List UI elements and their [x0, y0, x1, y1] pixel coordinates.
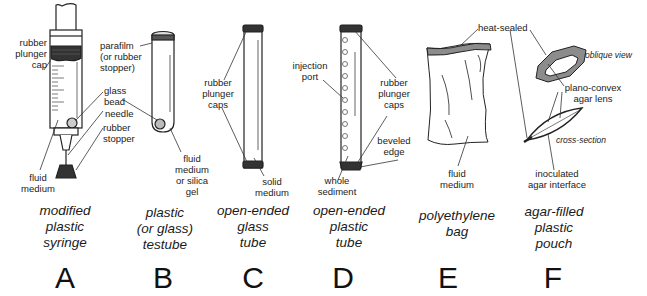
caption-d: open-ended plastic tube [309, 203, 389, 251]
polyethylene-bag-illustration [427, 43, 491, 144]
panel-letter-c: C [233, 262, 273, 294]
label-parafilm: parafilm (or rubber stopper) [100, 40, 142, 73]
testube-illustration [152, 32, 174, 133]
label-rubber-plunger-caps-d: rubber plunger caps [372, 77, 416, 110]
label-solid-medium: solid medium [250, 176, 294, 198]
label-fluid-medium-e: fluid medium [435, 168, 479, 190]
caption-c: open-ended glass tube [213, 203, 293, 251]
label-fluid-medium-b: fluid medium or silica gel [170, 153, 214, 197]
label-oblique-view: oblique view [585, 50, 632, 61]
caption-b: plastic (or glass) testube [125, 205, 205, 253]
panel-letter-e: E [428, 262, 468, 294]
label-fluid-medium-a: fluid medium [16, 172, 60, 194]
label-inoculated: inoculated agar interface [522, 168, 592, 190]
label-heat-sealed: heat-sealed [478, 22, 528, 33]
label-needle: needle [105, 108, 134, 119]
label-cross-section: cross-section [556, 135, 606, 146]
label-rubber-stopper: rubber stopper [103, 122, 135, 144]
glass-tube-illustration [243, 25, 263, 168]
label-glass-bead: glass bead [104, 85, 126, 107]
label-injection-port: injection port [288, 60, 332, 82]
caption-f: agar-filled plastic pouch [514, 204, 594, 252]
panel-letter-d: D [323, 262, 363, 294]
caption-e: polyethylene bag [412, 208, 502, 240]
plastic-tube-illustration [340, 25, 362, 170]
syringe-illustration [50, 4, 82, 178]
caption-a: modified plastic syringe [25, 203, 105, 251]
label-rubber-plunger-caps-c: rubber plunger caps [196, 77, 240, 110]
label-beveled-edge: beveled edge [372, 135, 416, 157]
panel-letter-a: A [45, 262, 85, 294]
panel-letter-f: F [533, 262, 573, 294]
panel-letter-b: B [143, 262, 183, 294]
label-plano-convex: plano-convex agar lens [562, 82, 624, 104]
label-whole-sediment: whole sediment [312, 175, 362, 197]
label-rubber-plunger-cap: rubber plunger cap [5, 37, 47, 70]
